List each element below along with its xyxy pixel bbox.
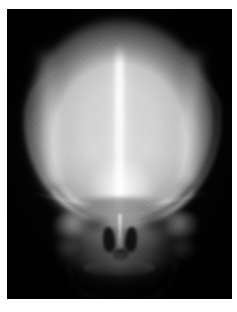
film-grain-diagonal [7,9,232,299]
radiograph-page [0,0,237,312]
emulsion-defect [0,161,3,166]
xray-film [7,9,232,299]
